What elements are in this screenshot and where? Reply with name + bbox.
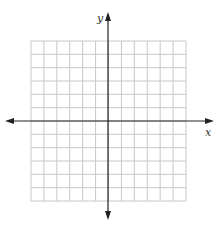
x-axis-right-arrow-icon bbox=[205, 118, 214, 124]
axes bbox=[5, 12, 214, 220]
coordinate-plane: y x bbox=[0, 0, 220, 230]
y-axis-up-arrow-icon bbox=[105, 12, 111, 21]
x-axis-left-arrow-icon bbox=[5, 118, 14, 124]
y-axis-label: y bbox=[96, 12, 104, 25]
y-axis-down-arrow-icon bbox=[105, 211, 111, 220]
x-axis-label: x bbox=[205, 126, 212, 139]
